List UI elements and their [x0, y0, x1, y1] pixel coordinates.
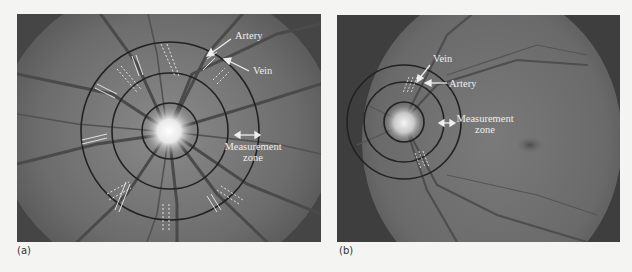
fundus-image-b: Vein Artery Measurement zone: [337, 15, 620, 242]
vein-label-b: Vein: [433, 53, 452, 64]
panel-caption-b: (b): [339, 245, 353, 256]
fundus-image-a: Artery Vein Measurement zone: [17, 14, 321, 242]
measurement-label-line1: Measurement: [213, 141, 293, 152]
artery-label-b: Artery: [449, 78, 476, 89]
panel-caption-a: (a): [17, 245, 31, 256]
measurement-label-line2: zone: [213, 152, 293, 163]
artery-label-a: Artery: [235, 30, 262, 41]
measurement-label-line2: zone: [445, 124, 525, 135]
measurement-zone-label-a: Measurement zone: [213, 141, 293, 163]
measurement-zone-label-b: Measurement zone: [445, 113, 525, 135]
vein-label-a: Vein: [253, 65, 272, 76]
measurement-label-line1: Measurement: [445, 113, 525, 124]
fundus-graphic-a: [17, 14, 321, 242]
